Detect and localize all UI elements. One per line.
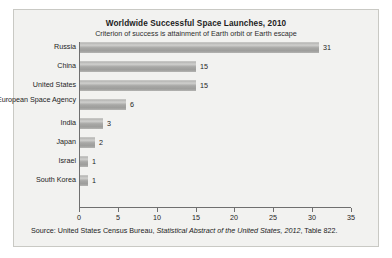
bar-value-india: 3: [107, 119, 111, 128]
title-block: Worldwide Successful Space Launches, 201…: [14, 18, 378, 39]
category-label-united-states: United States: [0, 81, 79, 90]
source-title: Statistical Abstract of the United State…: [156, 226, 300, 235]
bar-european-space-agency: [80, 99, 126, 110]
x-tick: [79, 208, 80, 212]
bar-value-russia: 31: [323, 43, 331, 52]
x-axis-line: [79, 207, 351, 208]
bar-value-south-korea: 1: [92, 176, 96, 185]
bar-value-united-states: 15: [200, 81, 208, 90]
plot-area: Russia 31 China 15 United States 15 Euro…: [14, 40, 380, 215]
bar-japan: [80, 137, 95, 148]
x-tick-label-15: 15: [192, 213, 200, 222]
bar-value-israel: 1: [92, 157, 96, 166]
bar-row: Japan 2: [14, 135, 380, 154]
source-note: Source: United States Census Bureau, Sta…: [31, 226, 337, 235]
bar-india: [80, 118, 103, 129]
x-tick-label-0: 0: [77, 213, 81, 222]
category-label-south-korea: South Korea: [0, 176, 79, 185]
bar-value-japan: 2: [99, 138, 103, 147]
x-tick: [273, 208, 274, 212]
x-tick-label-30: 30: [308, 213, 316, 222]
chart-title: Worldwide Successful Space Launches, 201…: [14, 18, 378, 29]
x-tick: [118, 208, 119, 212]
category-label-russia: Russia: [0, 43, 79, 52]
source-suffix: , Table 822.: [300, 226, 337, 235]
bar-row: European Space Agency 6: [14, 97, 380, 116]
x-tick-label-10: 10: [153, 213, 161, 222]
category-label-european-space-agency: European Space Agency: [0, 96, 79, 104]
bar-row: South Korea 1: [14, 173, 380, 192]
bar-row: Russia 31: [14, 40, 380, 59]
bar-row: India 3: [14, 116, 380, 135]
x-tick: [312, 208, 313, 212]
category-label-india: India: [0, 119, 79, 128]
chart-subtitle: Criterion of success is attainment of Ea…: [14, 29, 378, 39]
bar-row: China 15: [14, 59, 380, 78]
bar-russia: [80, 42, 319, 53]
bar-south-korea: [80, 175, 88, 186]
bar-israel: [80, 156, 88, 167]
x-tick: [351, 208, 352, 212]
x-tick: [196, 208, 197, 212]
bar-united-states: [80, 80, 196, 91]
category-label-china: China: [0, 62, 79, 71]
bar-china: [80, 61, 196, 72]
x-tick: [157, 208, 158, 212]
x-tick: [234, 208, 235, 212]
category-label-japan: Japan: [0, 138, 79, 147]
x-tick-label-5: 5: [116, 213, 120, 222]
x-tick-label-25: 25: [269, 213, 277, 222]
x-tick-label-35: 35: [347, 213, 355, 222]
bar-row: Israel 1: [14, 154, 380, 173]
chart-figure: Worldwide Successful Space Launches, 201…: [13, 9, 379, 247]
x-tick-label-20: 20: [230, 213, 238, 222]
bar-value-china: 15: [200, 62, 208, 71]
category-label-israel: Israel: [0, 157, 79, 166]
bar-value-european-space-agency: 6: [130, 100, 134, 109]
source-prefix: Source: United States Census Bureau,: [31, 226, 156, 235]
